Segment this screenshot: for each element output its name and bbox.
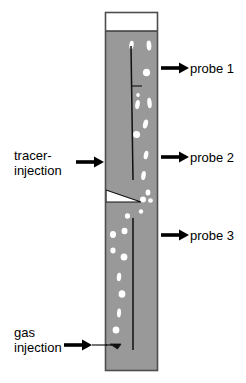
bubble [136, 93, 140, 97]
gas-injection-arrow-icon [64, 340, 107, 351]
gas-injection-label: gas injection [14, 325, 62, 355]
bubble [148, 198, 153, 202]
bubble [121, 253, 128, 260]
bubble [133, 131, 140, 138]
bubble [146, 190, 151, 196]
bubble [119, 290, 126, 298]
tracer-injection-label-line1: tracer- [14, 148, 62, 163]
tracer-injection-label-line2: injection [14, 163, 62, 178]
tracer-injection-arrow-icon [76, 157, 104, 168]
bubble [143, 69, 150, 77]
bubble [113, 326, 120, 333]
bubble [139, 209, 143, 213]
probe-1-label: probe 1 [190, 61, 234, 76]
probe-1-arrow-icon [161, 63, 189, 74]
bubble-column-diagram: probe 1 probe 2 probe 3 tracer- injectio… [0, 0, 246, 383]
bubble [110, 248, 115, 254]
probe-2-label: probe 2 [190, 150, 234, 165]
probe-3-arrow-icon [161, 230, 189, 241]
column-freeboard [106, 13, 158, 32]
gas-injection-label-line1: gas [14, 325, 62, 340]
probe-2-arrow-icon [161, 152, 189, 163]
bubble [110, 231, 116, 238]
bubble [125, 213, 130, 219]
gas-injection-label-line2: injection [14, 340, 62, 355]
bubble [122, 228, 128, 234]
tracer-injection-label: tracer- injection [14, 148, 62, 178]
probe-3-label: probe 3 [190, 228, 234, 243]
